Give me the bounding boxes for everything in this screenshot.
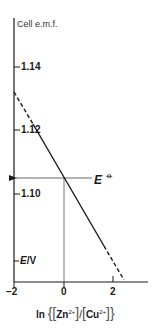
emf-line-dashed-start [14, 92, 33, 124]
x-tick-label-2: 2 [110, 287, 116, 297]
e-standard-label: E⦵ [94, 171, 114, 186]
y-tick-label-1.14: 1.14 [21, 62, 40, 72]
chart-title: Cell e.m.f. [17, 20, 58, 29]
x-axis-label-ln: ln [36, 309, 45, 320]
x-tick-label-minus2: −2 [6, 287, 17, 297]
right-brace-icon: } [110, 305, 115, 321]
y-tick-label-1.10: 1.10 [21, 189, 40, 199]
emf-line-dashed-end [104, 246, 124, 280]
y-axis-label-unit: /V [27, 255, 36, 266]
y-axis-label-e: E [20, 255, 27, 266]
e-standard-symbol: E [94, 173, 102, 187]
y-axis-label: E/V [20, 256, 36, 266]
x-axis-label-cu: Cu [86, 309, 99, 320]
x-axis-label-zn: Zn [56, 309, 68, 320]
standard-state-icon: ⦵ [106, 170, 114, 180]
y-tick-label-1.12: 1.12 [21, 125, 40, 135]
x-tick-label-0: 0 [61, 287, 67, 297]
x-axis-label: ln {[Zn2+]/[Cu2+]} [36, 306, 115, 320]
emf-chart [0, 0, 152, 329]
